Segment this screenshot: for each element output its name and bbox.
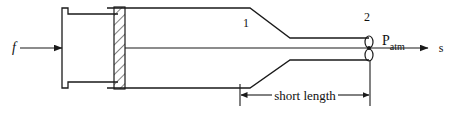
piston-body — [62, 8, 118, 88]
wall-hatched-rect — [114, 7, 125, 89]
diagram-canvas: f 1 2 Patm s short length — [0, 0, 454, 118]
duct-lower-wall — [107, 60, 369, 88]
pressure-subscript: atm — [390, 41, 405, 52]
station-1-label: 1 — [243, 16, 249, 30]
exit-ellipse-lower — [365, 49, 373, 61]
s-axis-label: s — [439, 41, 444, 55]
atmospheric-pressure-label: Patm — [382, 33, 405, 52]
piston-outline — [62, 8, 118, 88]
bulkhead-wall — [114, 7, 125, 89]
force-label: f — [12, 40, 18, 55]
duct-upper-wall — [107, 8, 369, 38]
pressure-symbol: P — [382, 33, 390, 48]
nozzle-diagram: f 1 2 Patm s short length — [0, 0, 454, 118]
short-length-label: short length — [274, 88, 336, 103]
station-2-label: 2 — [364, 10, 370, 24]
